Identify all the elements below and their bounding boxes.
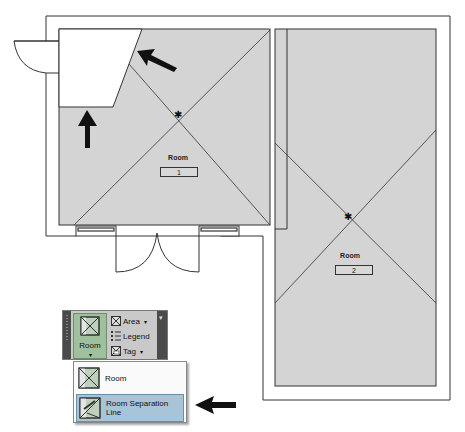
area-icon [111, 316, 121, 326]
arrow-pointing-to-room-separation-line [195, 396, 236, 414]
legend-button[interactable]: Legend [111, 329, 150, 343]
menu-item-room-label: Room [105, 374, 126, 383]
menu-item-room-separation-line-label: Room Separation Line [106, 399, 183, 417]
room-2-name-tag[interactable]: Room [330, 252, 370, 259]
chevron-down-icon[interactable]: ▾ [140, 348, 143, 355]
menu-item-room-separation-line[interactable]: Room Separation Line [76, 394, 184, 422]
room-2-center-marker: ✱ [344, 211, 352, 222]
room-icon [80, 316, 100, 336]
room-1-center-marker: ✱ [174, 109, 182, 120]
room-icon [78, 367, 100, 389]
floor-plan-canvas[interactable]: ✱ ✱ [0, 0, 465, 432]
tag-button[interactable]: Tag ▾ [111, 344, 143, 358]
room-1[interactable]: ✱ [59, 29, 270, 225]
room-2-number-tag[interactable]: 2 [335, 265, 373, 275]
room-2[interactable]: ✱ [275, 29, 436, 386]
chevron-down-icon[interactable]: ▾ [74, 351, 106, 358]
chevron-down-icon[interactable]: ▾ [144, 318, 147, 325]
room-1-number-tag[interactable]: 1 [160, 167, 198, 177]
legend-label: Legend [123, 332, 150, 341]
room-1-name-tag[interactable]: Room [158, 154, 198, 161]
panel-options[interactable]: ▾ [157, 311, 167, 359]
tag-icon [111, 346, 121, 356]
window-left [76, 226, 116, 236]
chevron-down-icon[interactable]: ▾ [159, 314, 163, 322]
room-separation-line-icon [79, 397, 101, 419]
area-button[interactable]: Area ▾ [111, 314, 147, 328]
area-label: Area [123, 317, 140, 326]
menu-item-room[interactable]: Room [76, 364, 184, 392]
room-dropdown-menu: Room Room Separation Line [73, 361, 187, 423]
double-door [116, 233, 199, 272]
window-right [199, 226, 239, 236]
legend-icon [111, 331, 121, 341]
room-button-label: Room [74, 341, 106, 350]
room-area-ribbon-panel: Room ▾ Area ▾ Legend Tag ▾ ▾ [62, 310, 168, 360]
panel-grip[interactable] [63, 311, 71, 359]
door-left [14, 41, 59, 73]
tag-label: Tag [123, 347, 136, 356]
room-split-button[interactable]: Room ▾ [73, 313, 107, 359]
